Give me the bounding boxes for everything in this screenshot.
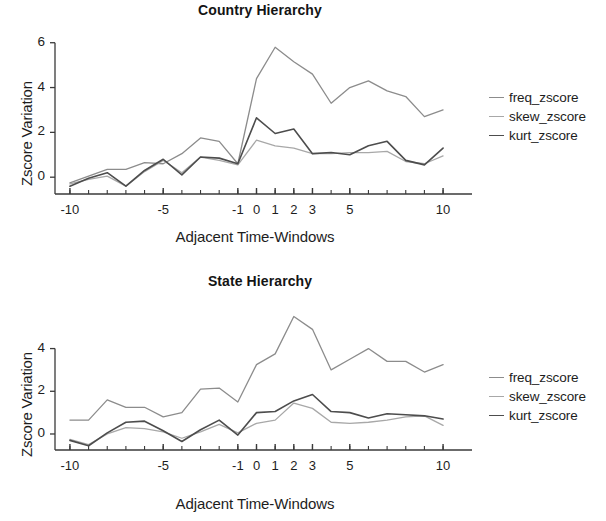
- x-tick-label: 3: [297, 458, 327, 473]
- y-tick-label: 0: [21, 168, 45, 183]
- figure-container: Country Hierarchy Zscore Variation Adjac…: [0, 0, 606, 521]
- y-tick-label: 4: [21, 79, 45, 94]
- legend: freq_zscore skew_zscore kurt_zscore: [489, 88, 586, 145]
- y-tick-label: 2: [21, 123, 45, 138]
- x-tick-label: 10: [428, 202, 458, 217]
- y-tick-label: 6: [21, 34, 45, 49]
- legend-label-kurt: kurt_zscore: [509, 128, 578, 143]
- legend-item-skew: skew_zscore: [489, 387, 586, 406]
- legend-item-freq: freq_zscore: [489, 368, 586, 387]
- legend-swatch-kurt-icon: [489, 415, 504, 416]
- x-tick-label: 5: [335, 202, 365, 217]
- legend: freq_zscore skew_zscore kurt_zscore: [489, 368, 586, 425]
- legend-item-kurt: kurt_zscore: [489, 406, 586, 425]
- series-line-skew_zscore: [70, 403, 443, 445]
- x-tick-label: -10: [55, 202, 85, 217]
- legend-swatch-freq-icon: [489, 97, 504, 98]
- legend-swatch-kurt-icon: [489, 135, 504, 136]
- legend-swatch-freq-icon: [489, 377, 504, 378]
- x-tick-label: -10: [55, 458, 85, 473]
- chart-panel-country-hierarchy: Country Hierarchy Zscore Variation Adjac…: [0, 0, 606, 260]
- x-tick-label: -5: [148, 202, 178, 217]
- legend-label-skew: skew_zscore: [509, 109, 586, 124]
- chart-panel-state-hierarchy: State Hierarchy Zscore Variation Adjacen…: [0, 261, 606, 521]
- legend-label-freq: freq_zscore: [509, 370, 578, 385]
- legend-swatch-skew-icon: [489, 396, 504, 397]
- series-line-freq_zscore: [70, 317, 443, 421]
- legend-label-kurt: kurt_zscore: [509, 408, 578, 423]
- x-tick-label: 3: [297, 202, 327, 217]
- y-tick-label: 0: [21, 425, 45, 440]
- y-tick-label: 4: [21, 340, 45, 355]
- series-line-freq_zscore: [70, 47, 443, 183]
- legend-label-skew: skew_zscore: [509, 389, 586, 404]
- y-tick-label: 2: [21, 382, 45, 397]
- legend-swatch-skew-icon: [489, 116, 504, 117]
- legend-item-freq: freq_zscore: [489, 88, 586, 107]
- x-tick-label: -5: [148, 458, 178, 473]
- x-tick-label: 10: [428, 458, 458, 473]
- legend-label-freq: freq_zscore: [509, 90, 578, 105]
- series-line-skew_zscore: [70, 140, 443, 186]
- legend-item-kurt: kurt_zscore: [489, 126, 586, 145]
- x-tick-label: 5: [335, 458, 365, 473]
- legend-item-skew: skew_zscore: [489, 107, 586, 126]
